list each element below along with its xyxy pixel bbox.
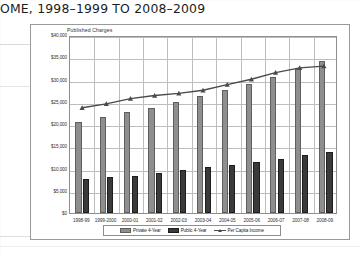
- y-axis-tick-label: $25,000: [33, 100, 67, 105]
- legend-item-income: Per Capita Income: [214, 228, 264, 233]
- income-line-path: [82, 66, 324, 108]
- x-axis-tick-label: 2005-06: [240, 218, 264, 223]
- legend-label-private: Private 4-Year: [133, 228, 161, 233]
- legend-label-public: Public 4-Year: [181, 228, 207, 233]
- legend-item-private: Private 4-Year: [120, 228, 161, 233]
- scan-artifact-line: [0, 236, 30, 237]
- plot-area: [69, 36, 337, 214]
- y-axis-tick-label: $0: [33, 211, 67, 216]
- y-axis-tick-label: $30,000: [33, 78, 67, 83]
- y-axis-tick-label: $10,000: [33, 167, 67, 172]
- x-axis-tick-label: 2001-02: [142, 218, 166, 223]
- x-axis-tick-label: 2004-05: [215, 218, 239, 223]
- y-axis-tick-label: $40,000: [33, 33, 67, 38]
- chart-subtitle: Published Charges: [67, 27, 113, 33]
- x-axis-tick-label: 2003-04: [191, 218, 215, 223]
- y-axis-tick-label: $15,000: [33, 144, 67, 149]
- y-axis-tick-label: $35,000: [33, 55, 67, 60]
- legend-swatch-private-icon: [120, 228, 131, 233]
- legend-label-income: Per Capita Income: [228, 228, 264, 233]
- x-axis-tick-label: 1998-99: [69, 218, 93, 223]
- y-axis: $0$5,000$10,000$15,000$20,000$25,000$30,…: [31, 36, 67, 214]
- scan-artifact-line: [0, 86, 30, 87]
- page-title: OME, 1998–1999 TO 2008–2009: [0, 1, 340, 19]
- scan-artifact-line: [0, 246, 360, 247]
- x-axis-tick-label: 2007-08: [288, 218, 312, 223]
- scan-artifact-line: [0, 44, 30, 45]
- y-axis-tick-label: $5,000: [33, 189, 67, 194]
- legend-swatch-public-icon: [168, 228, 179, 233]
- x-axis-tick-label: 2002-03: [166, 218, 190, 223]
- legend-swatch-income-line-icon: [214, 228, 226, 233]
- x-axis-tick-label: 2006-07: [264, 218, 288, 223]
- chart-legend: Private 4-Year Public 4-Year Per Capita …: [103, 225, 281, 236]
- x-axis-tick-label: 2008-09: [313, 218, 337, 223]
- legend-item-public: Public 4-Year: [168, 228, 207, 233]
- y-axis-tick-label: $20,000: [33, 122, 67, 127]
- x-axis-tick-label: 2000-01: [118, 218, 142, 223]
- x-axis-tick-label: 1999-2000: [93, 218, 117, 223]
- income-line-series: [70, 37, 336, 213]
- chart-container: Published Charges $0$5,000$10,000$15,000…: [30, 24, 350, 240]
